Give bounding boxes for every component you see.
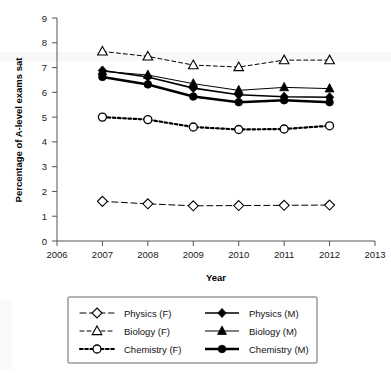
data-point-open-circle xyxy=(280,125,288,133)
scan-artifact-left xyxy=(0,300,12,370)
data-point-filled-circle xyxy=(99,73,107,81)
x-tick-label: 2011 xyxy=(274,249,294,260)
x-tick-label: 2008 xyxy=(137,249,158,260)
data-point-filled-circle xyxy=(218,345,226,353)
data-point-open-circle xyxy=(189,123,197,131)
legend-label: Chemistry (M) xyxy=(249,344,309,355)
data-point-filled-circle xyxy=(235,98,243,106)
data-point-filled-circle xyxy=(280,96,288,104)
data-point-filled-circle xyxy=(189,93,197,101)
legend-label: Physics (F) xyxy=(124,308,172,319)
data-point-open-circle xyxy=(98,113,106,121)
line-chart: 0123456789 20062007200820092010201120122… xyxy=(0,0,391,374)
data-point-open-circle xyxy=(144,116,152,124)
data-point-open-circle xyxy=(326,122,334,130)
y-tick-label: 3 xyxy=(42,161,47,172)
legend-label: Physics (M) xyxy=(249,308,299,319)
y-tick-label: 7 xyxy=(42,62,47,73)
legend-label: Biology (M) xyxy=(249,326,297,337)
data-point-open-circle xyxy=(93,345,101,353)
x-tick-label: 2010 xyxy=(228,249,249,260)
y-tick-label: 9 xyxy=(42,13,47,24)
chart-figure: 0123456789 20062007200820092010201120122… xyxy=(0,0,391,374)
y-tick-label: 4 xyxy=(42,136,47,147)
y-tick-label: 2 xyxy=(42,186,47,197)
x-tick-label: 2012 xyxy=(319,249,340,260)
y-axis-title: Percentage of A-level exams sat xyxy=(13,57,24,203)
data-point-open-circle xyxy=(235,126,243,134)
x-tick-label: 2013 xyxy=(364,249,385,260)
legend-label: Chemistry (F) xyxy=(124,344,182,355)
y-tick-label: 6 xyxy=(42,87,47,98)
x-tick-label: 2009 xyxy=(183,249,204,260)
data-point-filled-circle xyxy=(326,98,334,106)
data-point-filled-circle xyxy=(144,81,152,89)
y-tick-label: 1 xyxy=(42,211,47,222)
y-tick-label: 8 xyxy=(42,37,47,48)
y-tick-label: 5 xyxy=(42,112,47,123)
x-tick-label: 2006 xyxy=(46,249,67,260)
legend-label: Biology (F) xyxy=(124,326,170,337)
y-tick-label: 0 xyxy=(42,236,47,247)
x-axis-title: Year xyxy=(206,272,226,283)
legend-item-chemistry-f[interactable]: Chemistry (F) xyxy=(80,344,182,355)
x-tick-label: 2007 xyxy=(92,249,113,260)
